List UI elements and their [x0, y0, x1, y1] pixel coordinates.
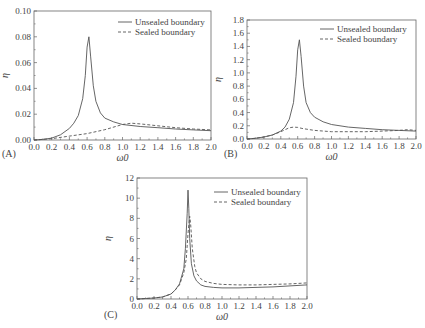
legend-label: Unsealed boundary	[337, 24, 407, 34]
x-tick-label: 1.0	[216, 301, 228, 311]
x-tick-label: 0.8	[309, 141, 321, 151]
y-tick-label: 2	[130, 274, 135, 284]
x-tick-label: 0.6	[292, 141, 304, 151]
y-tick-label: 0.8	[233, 81, 245, 91]
x-tick-label: 0.4	[64, 142, 76, 152]
y-tick-label: 1.0	[233, 68, 245, 78]
x-tick-label: 1.6	[267, 301, 279, 311]
x-tick-label: 1.2	[343, 141, 354, 151]
x-tick-label: 0.6	[81, 142, 93, 152]
x-tick-label: 0.4	[165, 301, 177, 311]
x-tick-label: 0.2	[46, 142, 57, 152]
x-tick-label: 1.2	[233, 301, 244, 311]
unsealed-boundary-line	[247, 40, 416, 139]
y-axis-label: η	[102, 236, 113, 241]
x-tick-label: 1.6	[170, 142, 182, 152]
x-tick-label: 0.8	[99, 142, 111, 152]
x-tick-label: 1.4	[360, 141, 372, 151]
y-tick-label: 6	[130, 234, 135, 244]
legend-label: Sealed boundary	[231, 197, 292, 207]
y-tick-label: 1.4	[233, 41, 245, 51]
legend-label: Sealed boundary	[135, 27, 196, 37]
x-tick-label: 1.8	[393, 141, 405, 151]
x-tick-label: 1.6	[377, 141, 389, 151]
x-tick-label: 1.4	[250, 301, 262, 311]
y-tick-label: 0.06	[15, 58, 31, 68]
x-tick-label: 0.2	[258, 141, 269, 151]
x-tick-label: 1.2	[135, 142, 146, 152]
x-axis-label: ω0	[216, 311, 228, 322]
y-tick-label: 10	[125, 193, 135, 203]
chart-panel-b: 0.00.20.40.60.81.01.21.41.61.82.00.00.20…	[212, 15, 422, 162]
y-tick-label: 0.02	[15, 109, 31, 119]
y-tick-label: 0.6	[233, 94, 245, 104]
x-tick-label: 1.8	[188, 142, 200, 152]
x-tick-label: 1.0	[117, 142, 129, 152]
x-tick-label: 0.6	[182, 301, 194, 311]
x-tick-label: 1.8	[284, 301, 296, 311]
y-tick-label: 4	[130, 254, 135, 264]
x-axis-label: ω0	[325, 151, 337, 162]
y-tick-label: 1.6	[233, 28, 245, 38]
y-tick-label: 1.2	[233, 55, 244, 65]
chart-panel-c: 0.00.20.40.60.81.01.21.41.61.82.00246810…	[102, 173, 313, 322]
y-tick-label: 8	[130, 213, 135, 223]
legend-label: Sealed boundary	[337, 34, 398, 44]
y-axis-label: η	[0, 73, 10, 78]
y-tick-label: 1.8	[233, 15, 245, 25]
y-tick-label: 0.00	[15, 135, 31, 145]
legend-label: Unsealed boundary	[135, 17, 205, 27]
y-tick-label: 0.08	[15, 32, 31, 42]
x-axis-label: ω0	[116, 152, 128, 163]
x-tick-label: 1.0	[326, 141, 338, 151]
y-tick-label: 0.10	[15, 6, 31, 16]
x-tick-label: 2.0	[410, 141, 422, 151]
x-tick-label: 2.0	[301, 301, 313, 311]
y-tick-label: 12	[125, 173, 134, 183]
y-tick-label: 0.0	[233, 134, 245, 144]
panel-label: (C)	[104, 309, 117, 321]
y-axis-label: η	[212, 77, 223, 82]
x-tick-label: 0.2	[148, 301, 159, 311]
y-tick-label: 0.4	[233, 108, 245, 118]
chart-panel-a: 0.00.20.40.60.81.01.21.41.61.82.00.000.0…	[0, 6, 217, 163]
panel-label: (B)	[224, 148, 237, 160]
y-tick-label: 0	[130, 294, 135, 304]
y-tick-label: 0.2	[233, 121, 244, 131]
y-tick-label: 0.04	[15, 83, 31, 93]
legend-label: Unsealed boundary	[231, 187, 301, 197]
x-tick-label: 1.4	[152, 142, 164, 152]
x-tick-label: 2.0	[205, 142, 217, 152]
x-tick-label: 0.4	[275, 141, 287, 151]
figure-canvas: 0.00.20.40.60.81.01.21.41.61.82.00.000.0…	[0, 0, 425, 328]
x-tick-label: 0.8	[199, 301, 211, 311]
panel-label: (A)	[2, 148, 16, 160]
